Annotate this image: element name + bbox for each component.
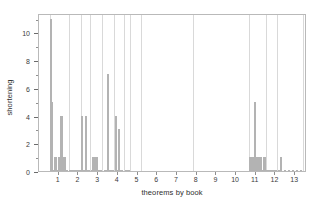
x-tick-mark (294, 172, 295, 175)
gridline-book-5 (102, 15, 103, 171)
x-tick-label: 8 (194, 176, 198, 183)
gridline-book-7 (124, 15, 125, 171)
x-axis: 12345678910111213 (38, 172, 306, 188)
x-tick-label: 3 (95, 176, 99, 183)
y-tick-mark (34, 117, 38, 118)
x-tick-label: 1 (56, 176, 60, 183)
y-tick-mark (34, 61, 38, 62)
bar (288, 170, 290, 171)
bar (274, 170, 276, 171)
x-tick-label: 13 (290, 176, 298, 183)
bar (300, 170, 302, 171)
y-tick-minor (36, 103, 38, 104)
gridline-book-4 (90, 15, 91, 171)
x-tick-label: 11 (251, 176, 258, 183)
bar (115, 116, 117, 171)
bar (118, 129, 120, 171)
x-tick-label: 10 (231, 176, 239, 183)
gridline-book-10 (193, 15, 194, 171)
bar (51, 102, 53, 171)
gridline-book-14 (303, 15, 304, 171)
gridline-book-2 (69, 15, 70, 171)
y-tick-label: 8 (26, 58, 30, 65)
y-tick-minor (36, 158, 38, 159)
y-tick-minor (36, 20, 38, 21)
x-tick-mark (255, 172, 256, 175)
gridline-book-9 (141, 15, 142, 171)
bar (128, 170, 130, 171)
gridline-book-12 (266, 15, 267, 171)
x-axis-title: theorems by book (38, 188, 306, 197)
bar (95, 157, 97, 171)
x-tick-label: 9 (213, 176, 217, 183)
x-tick-mark (274, 172, 275, 175)
plot-area (38, 14, 306, 172)
bar (107, 74, 109, 171)
y-tick-label: 0 (26, 169, 30, 176)
x-tick-mark (58, 172, 59, 175)
bar (292, 170, 294, 171)
chart-figure: 0246810 shortening 12345678910111213 the… (0, 0, 321, 206)
bar (85, 116, 87, 171)
y-tick-minor (36, 75, 38, 76)
x-tick-mark (97, 172, 98, 175)
x-tick-label: 6 (154, 176, 158, 183)
x-tick-label: 5 (135, 176, 139, 183)
x-tick-label: 2 (75, 176, 79, 183)
y-axis-title: shortening (5, 58, 14, 138)
y-tick-mark (34, 33, 38, 34)
x-tick-mark (215, 172, 216, 175)
x-tick-mark (235, 172, 236, 175)
x-tick-mark (176, 172, 177, 175)
y-tick-label: 2 (26, 141, 30, 148)
y-tick-minor (36, 130, 38, 131)
bar (81, 116, 83, 171)
gridline-book-11 (249, 15, 250, 171)
y-tick-label: 10 (22, 30, 30, 37)
bar (100, 170, 102, 171)
y-tick-minor (36, 47, 38, 48)
x-tick-mark (77, 172, 78, 175)
x-tick-mark (156, 172, 157, 175)
y-tick-label: 4 (26, 113, 30, 120)
bar (260, 157, 262, 171)
bar (280, 157, 282, 171)
bar (263, 157, 265, 171)
x-tick-label: 4 (115, 176, 119, 183)
gridline-book-8 (130, 15, 131, 171)
bar (121, 170, 123, 171)
y-tick-mark (34, 144, 38, 145)
bar (54, 157, 56, 171)
x-tick-mark (137, 172, 138, 175)
y-tick-label: 6 (26, 85, 30, 92)
x-tick-mark (117, 172, 118, 175)
x-tick-label: 7 (174, 176, 178, 183)
y-tick-mark (34, 89, 38, 90)
gridline-book-13 (277, 15, 278, 171)
x-tick-mark (196, 172, 197, 175)
bar (64, 157, 66, 171)
bar (296, 170, 298, 171)
bar (284, 170, 286, 171)
x-tick-label: 12 (271, 176, 279, 183)
